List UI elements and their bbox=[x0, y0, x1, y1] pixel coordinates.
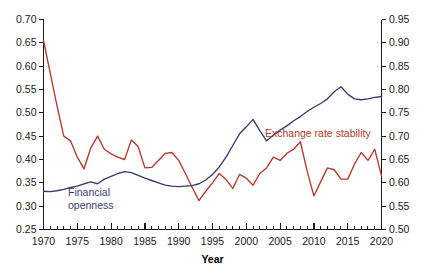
left-axis-tick-label: 0.55 bbox=[16, 83, 37, 95]
x-axis-tick-label: 1985 bbox=[133, 235, 157, 247]
x-axis-tick-label: 2000 bbox=[235, 235, 259, 247]
x-axis-tick-label: 2010 bbox=[302, 235, 326, 247]
right-axis-tick-label: 0.90 bbox=[389, 36, 410, 48]
right-axis-tick-label: 0.65 bbox=[389, 153, 410, 165]
right-axis-tick-label: 0.70 bbox=[389, 130, 410, 142]
series-label-financial-openness-line2: openness bbox=[68, 199, 114, 211]
left-axis-tick-label: 0.30 bbox=[16, 200, 37, 212]
chart-figure: 0.250.300.350.400.450.500.550.600.650.70… bbox=[0, 0, 430, 275]
right-axis-tick-label: 0.80 bbox=[389, 83, 410, 95]
left-axis-tick-label: 0.50 bbox=[16, 106, 37, 118]
left-axis-tick-label: 0.25 bbox=[16, 223, 37, 235]
x-axis-tick-label: 2005 bbox=[268, 235, 292, 247]
left-axis-tick-label: 0.65 bbox=[16, 36, 37, 48]
left-axis-tick-label: 0.70 bbox=[16, 13, 37, 25]
right-axis-tick-label: 0.55 bbox=[389, 200, 410, 212]
line-chart-canvas: 0.250.300.350.400.450.500.550.600.650.70… bbox=[0, 0, 430, 275]
x-axis-tick-label: 1990 bbox=[167, 235, 191, 247]
x-axis-tick-label: 2020 bbox=[370, 235, 394, 247]
right-axis-tick-label: 0.75 bbox=[389, 106, 410, 118]
x-axis-tick-label: 2015 bbox=[336, 235, 360, 247]
x-axis-tick-label: 1995 bbox=[201, 235, 225, 247]
right-axis-tick-label: 0.85 bbox=[389, 60, 410, 72]
left-axis-tick-label: 0.45 bbox=[16, 130, 37, 142]
x-axis-tick-label: 1975 bbox=[66, 235, 90, 247]
right-axis-tick-label: 0.60 bbox=[389, 176, 410, 188]
series-label-exchange-rate-stability: Exchange rate stability bbox=[265, 127, 371, 139]
x-axis-tick-label: 1970 bbox=[32, 235, 56, 247]
right-axis-tick-label: 0.50 bbox=[389, 223, 410, 235]
left-axis-tick-label: 0.35 bbox=[16, 176, 37, 188]
x-axis-tick-label: 1980 bbox=[99, 235, 123, 247]
left-axis-tick-label: 0.60 bbox=[16, 60, 37, 72]
left-axis-tick-label: 0.40 bbox=[16, 153, 37, 165]
right-axis-tick-label: 0.95 bbox=[389, 13, 410, 25]
x-axis-title: Year bbox=[201, 253, 223, 265]
series-label-financial-openness-line1: Financial bbox=[68, 186, 110, 198]
